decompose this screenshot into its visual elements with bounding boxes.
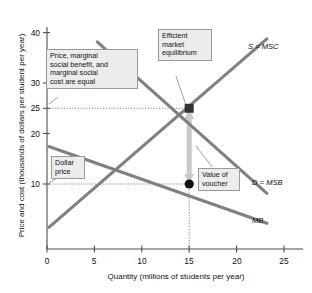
curve-label-marginal-benefit: MB: [252, 216, 263, 225]
x-tick-label-10: 10: [132, 256, 152, 266]
curve-label-demand: D = MSB: [252, 178, 283, 187]
curve-label-supply: S = MSC: [248, 42, 279, 51]
annotation-price-msb-msc-equal: Price, marginal social benefit, and marg…: [46, 49, 138, 89]
x-tick-label-20: 20: [227, 256, 247, 266]
x-tick-label-5: 5: [84, 256, 104, 266]
x-tick-label-15: 15: [179, 256, 199, 266]
dollar-price-marker: [185, 179, 194, 188]
x-axis-title: Quantity (millions of students per year): [46, 272, 306, 281]
annotation-dollar-price: Dollar price: [51, 156, 85, 179]
y-axis-title: Price and cost (thousands of dollars per…: [17, 31, 26, 241]
annotation-efficient-market-equilibrium: Efficient market equilibrium: [158, 29, 212, 61]
leader-efficient: [176, 76, 186, 105]
x-tick-label-0: 0: [37, 256, 57, 266]
chart-figure: 40 30 25 20 10 0 5 10 15 20 25 Price and…: [0, 0, 312, 293]
leader-value-of-voucher: [196, 146, 212, 167]
annotation-value-of-voucher: Value of voucher: [198, 168, 240, 191]
efficient-equilibrium-marker: [185, 104, 194, 113]
leader-price-equal: [49, 97, 58, 104]
x-tick-label-25: 25: [274, 256, 294, 266]
